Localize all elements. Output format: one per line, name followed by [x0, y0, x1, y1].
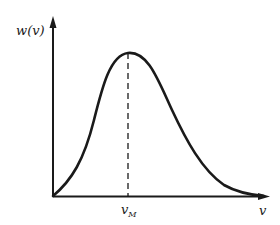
peak-speed-subscript: M: [128, 210, 136, 219]
x-axis-label: v: [259, 204, 266, 217]
y-axis-arrow-icon: [50, 16, 57, 28]
y-axis-label: w(v): [16, 24, 45, 37]
peak-speed-label: vM: [121, 203, 137, 219]
distribution-curve: [53, 53, 264, 196]
